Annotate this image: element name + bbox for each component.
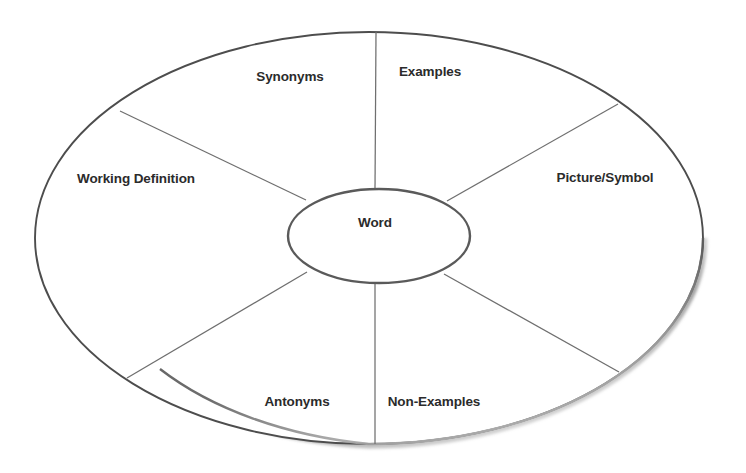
center-label-word: Word xyxy=(358,215,392,230)
center-oval xyxy=(288,189,470,283)
segment-label-picture-symbol: Picture/Symbol xyxy=(557,170,654,185)
segment-label-working-definition: Working Definition xyxy=(77,171,195,186)
segment-label-non-examples: Non-Examples xyxy=(388,394,481,409)
segment-label-synonyms: Synonyms xyxy=(256,69,323,84)
wheel-canvas: Synonyms Examples Picture/Symbol Non-Exa… xyxy=(0,0,746,473)
segment-label-examples: Examples xyxy=(399,64,461,79)
segment-label-antonyms: Antonyms xyxy=(264,394,329,409)
word-wheel-diagram: Synonyms Examples Picture/Symbol Non-Exa… xyxy=(0,0,746,473)
